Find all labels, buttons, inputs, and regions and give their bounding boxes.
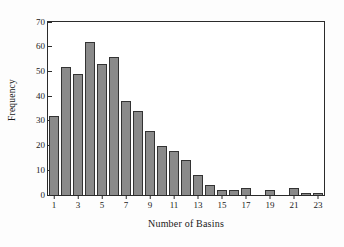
plot-area: 010203040506070 1357911131517192123 [47, 21, 325, 196]
x-axis-tick: 15 [218, 195, 227, 210]
histogram-bar [97, 64, 107, 195]
x-axis-tick-mark [173, 195, 174, 199]
x-axis-tick-mark [54, 195, 55, 199]
y-axis-tick-label: 20 [36, 141, 48, 150]
x-axis-tick-mark [102, 195, 103, 199]
histogram-bar [241, 188, 251, 195]
y-axis-tick-label: 70 [36, 18, 48, 27]
x-axis-tick: 1 [52, 195, 57, 210]
x-axis-tick: 3 [76, 195, 81, 210]
x-axis-tick: 23 [314, 195, 323, 210]
histogram-bar [217, 190, 227, 195]
y-axis-title: Frequency [2, 0, 22, 200]
x-axis-tick: 19 [266, 195, 275, 210]
y-axis-tick-label: 40 [36, 92, 48, 101]
x-axis-tick-label: 7 [124, 201, 129, 210]
histogram-bar [157, 146, 167, 195]
x-axis-tick-mark [270, 195, 271, 199]
x-axis-tick-label: 21 [290, 201, 299, 210]
histogram-bar [229, 190, 239, 195]
x-axis-tick-mark [78, 195, 79, 199]
histogram-bar [169, 151, 179, 195]
x-axis-tick-label: 19 [266, 201, 275, 210]
histogram-bar [109, 57, 119, 195]
x-axis-tick-label: 9 [148, 201, 153, 210]
y-axis-tick-label: 30 [36, 116, 48, 125]
histogram-bar [301, 193, 311, 195]
histogram-bar [61, 67, 71, 196]
y-axis-tick-label: 0 [41, 191, 49, 200]
x-axis-title: Number of Basins [47, 218, 325, 229]
histogram-figure: Frequency 010203040506070 13579111315171… [0, 0, 344, 247]
x-axis-tick-mark [198, 195, 199, 199]
histogram-bar [289, 188, 299, 195]
x-axis-tick-label: 15 [218, 201, 227, 210]
x-axis-tick: 7 [124, 195, 129, 210]
x-axis-tick-label: 23 [314, 201, 323, 210]
x-axis-tick: 9 [148, 195, 153, 210]
x-axis-tick: 21 [290, 195, 299, 210]
x-axis-tick-label: 13 [194, 201, 203, 210]
histogram-bar [85, 42, 95, 195]
y-axis-tick-label: 50 [36, 67, 48, 76]
histogram-bar [49, 116, 59, 195]
histogram-bar [205, 185, 215, 195]
x-axis-tick-mark [318, 195, 319, 199]
x-axis-tick-mark [246, 195, 247, 199]
x-axis-tick-mark [222, 195, 223, 199]
x-axis-tick: 13 [194, 195, 203, 210]
x-axis-tick: 11 [170, 195, 179, 210]
x-axis-tick: 17 [242, 195, 251, 210]
x-axis-tick-mark [294, 195, 295, 199]
x-axis-tick: 5 [100, 195, 105, 210]
histogram-bar [193, 175, 203, 195]
y-axis-tick-label: 10 [36, 166, 48, 175]
y-axis-tick-label: 60 [36, 42, 48, 51]
x-axis-tick-mark [150, 195, 151, 199]
x-axis-tick-label: 5 [100, 201, 105, 210]
x-axis-tick-label: 3 [76, 201, 81, 210]
histogram-bar [181, 160, 191, 195]
bar-series [48, 22, 324, 195]
x-axis-tick-label: 17 [242, 201, 251, 210]
y-axis-title-text: Frequency [7, 79, 17, 121]
histogram-bar [313, 193, 323, 195]
histogram-bar [73, 74, 83, 195]
x-axis-tick-mark [126, 195, 127, 199]
histogram-bar [265, 190, 275, 195]
histogram-bar [133, 111, 143, 195]
x-axis-tick-label: 1 [52, 201, 57, 210]
histogram-bar [145, 131, 155, 195]
histogram-bar [121, 101, 131, 195]
x-axis-tick-label: 11 [170, 201, 179, 210]
